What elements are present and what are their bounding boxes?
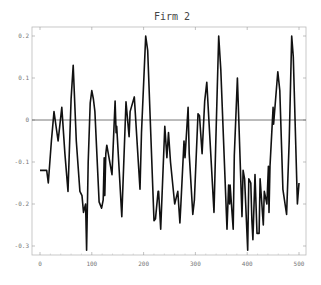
- y-tick-label: 0.1: [18, 74, 29, 81]
- x-tick-label: 200: [138, 260, 149, 267]
- chart-title: Firm 2: [154, 11, 190, 22]
- y-tick-label: -0.1: [15, 158, 30, 165]
- x-tick-label: 0: [38, 260, 42, 267]
- y-tick-label: 0: [25, 116, 29, 123]
- x-axis: 0100200300400500: [38, 27, 305, 267]
- line-chart: Firm 2 -0.3-0.2-0.100.10.2 0100200300400…: [0, 0, 321, 285]
- y-tick-label: 0.2: [18, 32, 29, 39]
- data-series-line: [40, 36, 299, 250]
- x-tick-label: 100: [86, 260, 97, 267]
- x-tick-label: 300: [190, 260, 201, 267]
- x-tick-label: 400: [242, 260, 253, 267]
- y-tick-label: -0.2: [15, 200, 30, 207]
- x-tick-label: 500: [294, 260, 305, 267]
- y-tick-label: -0.3: [15, 242, 30, 249]
